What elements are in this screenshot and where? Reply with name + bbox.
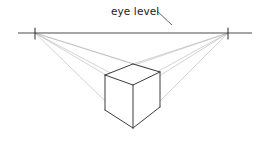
- eye-level-label: eye level: [111, 5, 159, 17]
- diagram-canvas: eye level: [0, 0, 273, 144]
- perspective-diagram: eye level: [0, 0, 273, 144]
